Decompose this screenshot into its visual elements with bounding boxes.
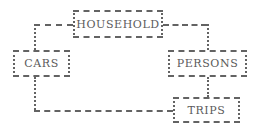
connector-cars-trips-vertical bbox=[34, 77, 36, 110]
entity-border-top bbox=[13, 50, 70, 52]
entity-persons[interactable]: PERSONS bbox=[168, 50, 247, 77]
entity-label-trips: TRIPS bbox=[188, 105, 226, 116]
entity-label-household: HOUSEHOLD bbox=[76, 19, 160, 30]
entity-border-top bbox=[173, 97, 240, 99]
entity-cars[interactable]: CARS bbox=[13, 50, 70, 77]
entity-border-left bbox=[168, 50, 170, 77]
connector-household-persons-horizontal bbox=[163, 24, 207, 26]
connector-household-cars-horizontal bbox=[34, 24, 73, 26]
connector-household-cars-vertical bbox=[34, 24, 36, 50]
entity-label-persons: PERSONS bbox=[177, 58, 239, 69]
entity-border-left bbox=[173, 97, 175, 123]
entity-border-right bbox=[161, 10, 163, 38]
entity-border-top bbox=[73, 10, 163, 12]
diagram-canvas: HOUSEHOLD CARS PERSONS TRIPS bbox=[0, 0, 257, 130]
entity-border-bottom bbox=[173, 121, 240, 123]
entity-household[interactable]: HOUSEHOLD bbox=[73, 10, 163, 38]
entity-border-right bbox=[68, 50, 70, 77]
connector-persons-trips-vertical bbox=[207, 77, 209, 97]
entity-border-right bbox=[245, 50, 247, 77]
entity-trips[interactable]: TRIPS bbox=[173, 97, 240, 123]
connector-cars-trips-horizontal bbox=[34, 110, 173, 112]
entity-border-right bbox=[238, 97, 240, 123]
connector-household-persons-vertical bbox=[207, 24, 209, 50]
entity-border-left bbox=[73, 10, 75, 38]
entity-border-left bbox=[13, 50, 15, 77]
entity-border-top bbox=[168, 50, 247, 52]
entity-border-bottom bbox=[168, 75, 247, 77]
entity-label-cars: CARS bbox=[24, 58, 59, 69]
entity-border-bottom bbox=[73, 36, 163, 38]
entity-border-bottom bbox=[13, 75, 70, 77]
